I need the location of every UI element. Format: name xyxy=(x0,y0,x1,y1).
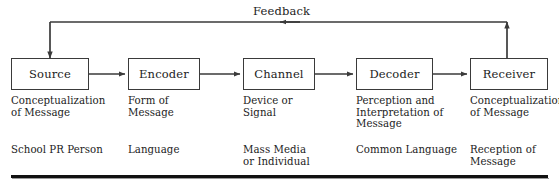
node-box-source[interactable]: Source xyxy=(11,58,89,90)
communication-model-diagram: Feedback Source Encoder Channel Decoder … xyxy=(0,0,559,189)
example-channel: Mass Media or Individual xyxy=(243,144,348,167)
node-box-receiver[interactable]: Receiver xyxy=(470,58,548,90)
description-encoder: Form of Message xyxy=(128,95,233,118)
node-box-channel[interactable]: Channel xyxy=(243,58,315,90)
node-label-decoder: Decoder xyxy=(369,67,419,81)
node-label-receiver: Receiver xyxy=(483,67,535,81)
node-label-encoder: Encoder xyxy=(139,67,189,81)
node-label-channel: Channel xyxy=(254,67,303,81)
description-channel: Device or Signal xyxy=(243,95,348,118)
node-box-encoder[interactable]: Encoder xyxy=(128,58,200,90)
description-receiver: Conceptualization of Message xyxy=(470,95,559,118)
node-label-source: Source xyxy=(29,67,71,81)
example-source: School PR Person xyxy=(11,144,123,156)
example-decoder: Common Language xyxy=(356,144,466,156)
example-receiver: Reception of Message xyxy=(470,144,559,167)
description-decoder: Perception and Interpretation of Message xyxy=(356,95,464,130)
description-source: Conceptualization of Message xyxy=(11,95,123,118)
feedback-label: Feedback xyxy=(253,4,310,18)
example-encoder: Language xyxy=(128,144,233,156)
bottom-divider-shadow xyxy=(12,178,549,179)
node-box-decoder[interactable]: Decoder xyxy=(356,58,433,90)
